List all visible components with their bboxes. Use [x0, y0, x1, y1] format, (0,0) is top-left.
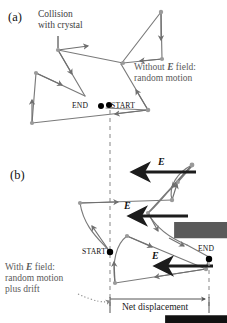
panel-a-tag: (a): [8, 10, 22, 25]
efield-vector-symbol: E: [167, 62, 173, 73]
panel-a-start-label: START: [111, 102, 135, 111]
walk-segment: [32, 73, 36, 123]
panel-a-note-line1: Without E field:: [134, 62, 196, 73]
panel-b-graphics: [78, 163, 213, 313]
direction-arrow: [80, 202, 118, 203]
direction-arrow: [58, 46, 88, 50]
direction-arrow: [58, 50, 72, 74]
direction-arrow: [155, 269, 206, 277]
caption-leader-dotted: [78, 294, 110, 302]
panel-a-end-dot: [98, 103, 104, 109]
efield-label-top: E: [158, 156, 165, 168]
panel-a-note-suffix: field:: [173, 62, 195, 72]
panel-b-note-line3: plus drift: [5, 284, 63, 295]
panel-b-note-prefix: With: [5, 262, 26, 272]
collision-node: [190, 163, 195, 168]
efield-label-middle: E: [124, 200, 131, 212]
direction-arrow: [136, 90, 148, 110]
efield-label-letter: E: [152, 250, 159, 261]
panel-b-tag: (b): [10, 168, 25, 183]
collision-label-line2: with crystal: [38, 20, 83, 31]
efield-vector-letter: E: [26, 262, 32, 272]
direction-arrow: [169, 238, 184, 246]
panel-b-start-dot: [107, 249, 113, 255]
panel-b-note: With E field: random motion plus drift: [5, 262, 63, 296]
direction-arrow: [36, 73, 62, 85]
panel-b-note-suffix: field:: [32, 262, 54, 272]
collision-node: [78, 201, 82, 205]
net-displacement-label: Net displacement: [122, 302, 188, 313]
collision-node: [159, 10, 163, 14]
panel-b-note-line2: random motion: [5, 273, 63, 284]
collision-node: [125, 234, 129, 238]
panel-a-note: Without E field: random motion: [134, 62, 196, 84]
collision-node: [176, 180, 180, 184]
walk-segment: [121, 12, 161, 64]
panel-b-end-dot: [206, 256, 212, 262]
efield-vector-symbol-middle: E: [124, 200, 131, 212]
efield-label-bottom: E: [152, 250, 159, 262]
collision-node: [121, 61, 125, 65]
panel-a-end-label: END: [72, 102, 88, 111]
drift-segment: [114, 236, 127, 283]
panel-a-note-prefix: Without: [134, 62, 167, 72]
efield-vector-symbol-top: E: [158, 156, 165, 168]
panel-a-note-line2: random motion: [134, 73, 196, 84]
walk-segment: [58, 50, 123, 63]
efield-vector-symbol-note: E: [26, 262, 32, 273]
direction-arrow: [172, 165, 192, 187]
collision-label: Collision with crystal: [38, 9, 83, 31]
collision-node: [146, 211, 150, 215]
collision-node: [160, 57, 164, 61]
collision-node: [34, 71, 38, 75]
panel-b-start-label: START: [82, 248, 106, 257]
direction-arrow: [127, 236, 152, 247]
collision-node: [56, 48, 60, 52]
efield-vector-symbol-bottom: E: [152, 250, 159, 262]
collision-label-line1: Collision: [38, 9, 83, 20]
collision-node: [30, 121, 34, 125]
efield-label-letter: E: [158, 156, 165, 167]
drift-segment: [148, 182, 178, 213]
drift-segment: [148, 213, 187, 245]
panel-b-note-line1: With E field:: [5, 262, 63, 273]
figure-electron-drift: (a) Collision with crystal Without E fie…: [0, 0, 227, 323]
collision-node: [113, 281, 117, 285]
efield-vector-letter: E: [167, 62, 173, 72]
efield-label-letter: E: [124, 200, 131, 211]
collision-node: [170, 198, 174, 202]
panel-b-end-label: END: [198, 245, 214, 254]
collision-node: [146, 108, 151, 113]
